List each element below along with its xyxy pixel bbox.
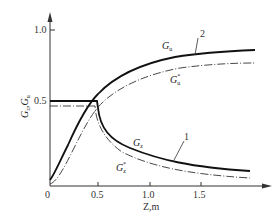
- chart-canvas: 1.0 0.5 0 0.5 1.0 1.5 Z,m Gz,Gu Gu Gu* G…: [0, 0, 279, 223]
- label-gz-star: Gz*: [116, 161, 126, 174]
- x-tick-label-0.5: 0.5: [91, 189, 104, 200]
- label-gu-star: Gu*: [170, 73, 180, 86]
- y-axis-title: Gz,Gu: [19, 95, 31, 118]
- curve-gu: [50, 50, 255, 180]
- x-tick-label-1.5: 1.5: [193, 189, 206, 200]
- curve-gz-star: [50, 106, 250, 178]
- y-axis-arrow-icon: [48, 12, 53, 22]
- label-gu: Gu: [162, 40, 172, 52]
- x-axis-arrow-icon: [262, 184, 272, 189]
- y-tick-label-1.0: 1.0: [34, 24, 47, 35]
- y-tick-label-0.5: 0.5: [34, 95, 47, 106]
- leader-1: [173, 141, 184, 162]
- marker-1: 1: [184, 131, 189, 142]
- x-tick-label-1.0: 1.0: [142, 189, 155, 200]
- svg-text:Gz,Gu: Gz,Gu: [19, 95, 31, 118]
- x-tick-label-0: 0: [45, 189, 50, 200]
- label-gz: Gz: [133, 137, 143, 149]
- curve-gu-star: [50, 63, 255, 184]
- marker-2: 2: [200, 28, 205, 39]
- leader-2: [195, 38, 198, 55]
- x-axis-title: Z,m: [143, 201, 160, 212]
